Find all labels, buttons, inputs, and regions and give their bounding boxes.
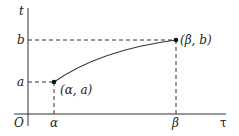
t-axis-label: t — [19, 4, 24, 18]
tau-axis-label: τ — [220, 116, 227, 130]
tick-alpha: α — [50, 116, 58, 130]
diagram: t τ O b a α β (α, a) (β, b) — [0, 0, 239, 136]
tick-a: a — [17, 75, 24, 89]
diagram-canvas: t τ O b a α β (α, a) (β, b) — [0, 0, 239, 136]
origin-label: O — [14, 116, 24, 130]
point-beta-b-label: (β, b) — [180, 33, 212, 47]
tick-beta: β — [171, 116, 179, 130]
point-beta-b — [174, 38, 179, 43]
point-alpha-a-label: (α, a) — [60, 83, 93, 97]
tick-b: b — [17, 33, 25, 47]
point-alpha-a — [52, 80, 57, 85]
curve — [54, 40, 176, 82]
